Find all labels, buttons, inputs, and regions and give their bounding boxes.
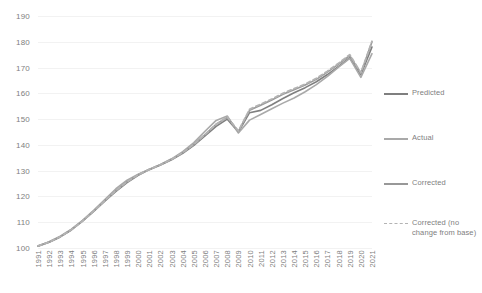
plot-area: [38, 16, 372, 248]
x-axis-tick-label: 2019: [346, 250, 355, 268]
x-axis-tick-label: 2018: [335, 250, 344, 268]
y-axis-tick-label: 190: [16, 12, 30, 21]
line-chart: 190180170160150140130120110100 199119921…: [0, 0, 482, 293]
x-axis-tick-label: 1998: [112, 250, 121, 268]
legend-entry[interactable]: Corrected: [384, 178, 482, 188]
y-axis-tick-label: 180: [16, 37, 30, 46]
legend-label: Actual: [412, 133, 433, 143]
x-axis-tick-label: 2002: [156, 250, 165, 268]
x-axis-tick-label: 1992: [45, 250, 54, 268]
x-axis-tick-label: 1999: [123, 250, 132, 268]
y-axis-tick-label: 120: [16, 192, 30, 201]
x-axis-tick-label: 2008: [223, 250, 232, 268]
x-axis-tick-label: 2013: [279, 250, 288, 268]
x-axis-tick-label: 2009: [234, 250, 243, 268]
gridline: [38, 248, 372, 249]
x-axis-tick-label: 1997: [101, 250, 110, 268]
x-axis-tick-label: 2010: [246, 250, 255, 268]
x-axis-tick-label: 2011: [257, 250, 266, 267]
y-axis: 190180170160150140130120110100: [0, 16, 34, 248]
x-axis-tick-label: 2003: [168, 250, 177, 268]
y-axis-tick-label: 100: [16, 244, 30, 253]
x-axis-tick-label: 2001: [145, 250, 154, 268]
legend-swatch-icon: [384, 89, 408, 98]
series-layer: [38, 16, 372, 248]
x-axis-tick-label: 2005: [190, 250, 199, 268]
x-axis: 1991199219931994199519961997199819992000…: [38, 250, 372, 292]
y-axis-tick-label: 150: [16, 115, 30, 124]
y-axis-tick-label: 160: [16, 89, 30, 98]
x-axis-tick-label: 2014: [290, 250, 299, 268]
y-axis-tick-label: 110: [17, 218, 30, 227]
y-axis-tick-label: 140: [16, 140, 30, 149]
x-axis-tick-label: 2000: [134, 250, 143, 268]
x-axis-tick-label: 2007: [212, 250, 221, 268]
y-axis-tick-label: 130: [16, 166, 30, 175]
x-axis-tick-label: 1995: [79, 250, 88, 268]
x-axis-tick-label: 2012: [268, 250, 277, 268]
legend-label: Predicted: [412, 88, 445, 98]
x-axis-tick-label: 2004: [179, 250, 188, 268]
legend-entry[interactable]: Predicted: [384, 88, 482, 98]
legend-entry[interactable]: Corrected (no change from base): [384, 218, 482, 238]
x-axis-tick-label: 2021: [368, 250, 377, 268]
x-axis-tick-label: 2020: [357, 250, 366, 268]
x-axis-tick-label: 1996: [90, 250, 99, 268]
x-axis-tick-label: 2017: [323, 250, 332, 268]
legend-label: Corrected (no change from base): [412, 218, 482, 238]
x-axis-tick-label: 2015: [301, 250, 310, 268]
legend-swatch-icon: [384, 219, 408, 228]
series-line: [38, 41, 372, 246]
legend-entry[interactable]: Actual: [384, 133, 482, 143]
x-axis-tick-label: 2006: [201, 250, 210, 268]
x-axis-tick-label: 2016: [312, 250, 321, 268]
legend-swatch-icon: [384, 134, 408, 143]
legend-label: Corrected: [412, 178, 446, 188]
legend-swatch-icon: [384, 179, 408, 188]
x-axis-tick-label: 1994: [67, 250, 76, 268]
x-axis-tick-label: 1991: [34, 250, 43, 268]
x-axis-tick-label: 1993: [56, 250, 65, 268]
y-axis-tick-label: 170: [16, 63, 30, 72]
